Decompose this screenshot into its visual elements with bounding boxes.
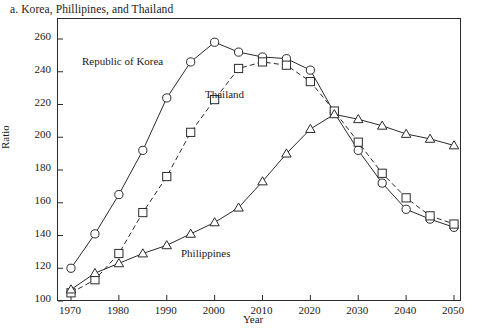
y-tick-label: 220: [21, 96, 51, 108]
y-tick-label: 140: [21, 227, 51, 239]
y-tick-label: 180: [21, 161, 51, 173]
y-tick-label: 160: [21, 194, 51, 206]
y-tick-label: 260: [21, 30, 51, 42]
x-tick-label: 2000: [192, 304, 236, 316]
series-republic-of-korea: [67, 38, 458, 272]
y-tick-label: 100: [21, 292, 51, 304]
chart-container: a. Korea, Phillipines, and Thailand Rati…: [0, 0, 483, 335]
series-philippines: [66, 110, 458, 293]
x-tick-label: 1970: [48, 304, 92, 316]
series-label-korea: Republic of Korea: [82, 55, 163, 67]
x-tick-label: 2040: [383, 304, 427, 316]
x-tick-label: 1990: [144, 304, 188, 316]
y-axis-label: Ratio: [0, 125, 11, 149]
x-tick-label: 1980: [96, 304, 140, 316]
chart-title: a. Korea, Phillipines, and Thailand: [10, 3, 173, 15]
x-tick-label: 2020: [287, 304, 331, 316]
y-tick-label: 200: [21, 128, 51, 140]
x-tick-label: 2010: [240, 304, 284, 316]
x-tick-label: 2050: [431, 304, 475, 316]
series-label-philippines: Philippines: [181, 247, 231, 259]
y-tick-label: 240: [21, 63, 51, 75]
series-label-thailand: Thailand: [205, 88, 244, 100]
y-tick-label: 120: [21, 259, 51, 271]
x-tick-label: 2030: [335, 304, 379, 316]
